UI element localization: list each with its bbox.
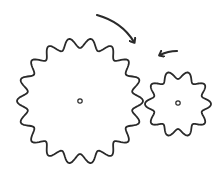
large-gear	[17, 39, 143, 163]
gear-diagram	[0, 0, 220, 184]
clockwise-arrow-icon	[97, 15, 134, 42]
counterclockwise-arrow-icon	[160, 51, 177, 55]
small-gear	[145, 73, 211, 136]
small-gear-axle	[176, 101, 180, 105]
large-gear-axle	[78, 99, 82, 103]
